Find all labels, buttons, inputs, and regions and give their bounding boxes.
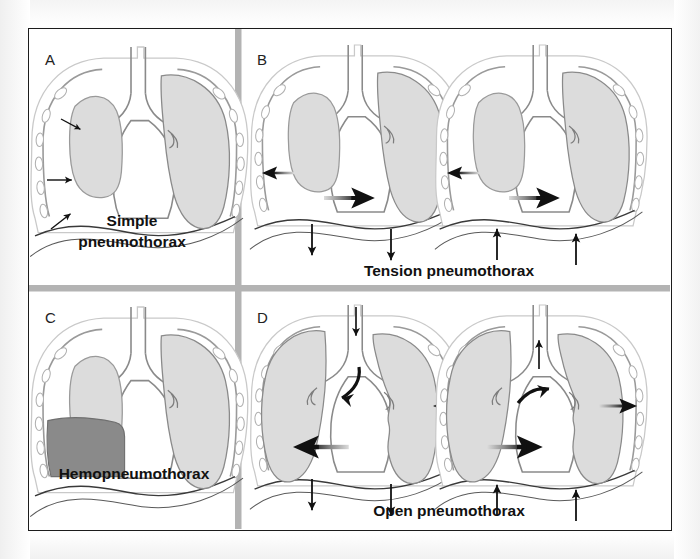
divider-horizontal bbox=[29, 285, 670, 292]
panel-b-label: Tension pneumothorax bbox=[364, 262, 535, 279]
panel-c-label: Hemopneumothorax bbox=[59, 465, 210, 482]
panel-b: Tension pneumothorax B bbox=[250, 45, 647, 279]
panel-d-label: Open pneumothorax bbox=[373, 502, 525, 519]
diaphragm-arrow-right bbox=[387, 229, 396, 260]
panel-b-letter: B bbox=[257, 51, 267, 68]
panel-a: Simple pneumothorax A bbox=[30, 47, 248, 257]
panel-d: Open pneumothorax D bbox=[250, 305, 647, 521]
panel-a-label-line1: Simple bbox=[107, 212, 158, 229]
page-scan-shading-bottom bbox=[0, 533, 700, 559]
panel-a-letter: A bbox=[45, 51, 55, 68]
panel-c: Hemopneumothorax C bbox=[30, 307, 248, 517]
panel-c-letter: C bbox=[45, 309, 56, 326]
figure-artwork: Simple pneumothorax A bbox=[29, 29, 670, 529]
pneumothorax-figure: Simple pneumothorax A bbox=[0, 0, 700, 559]
panel-a-label-line2: pneumothorax bbox=[78, 233, 186, 250]
panel-d-view-expiration bbox=[435, 305, 647, 521]
page-scan-shading-right bbox=[674, 0, 700, 559]
panel-b-view-expiration bbox=[435, 45, 647, 265]
page-scan-shading-left bbox=[0, 0, 30, 559]
panel-d-letter: D bbox=[257, 309, 268, 326]
panel-b-view-inspiration bbox=[250, 45, 462, 260]
diaphragm-arrow-right-d2 bbox=[572, 490, 581, 521]
figure-plate: Simple pneumothorax A bbox=[28, 28, 672, 531]
diaphragm-arrow-left bbox=[308, 224, 317, 255]
diaphragm-arrow-right-2 bbox=[572, 234, 581, 265]
page-scan-shading-top bbox=[0, 0, 700, 26]
